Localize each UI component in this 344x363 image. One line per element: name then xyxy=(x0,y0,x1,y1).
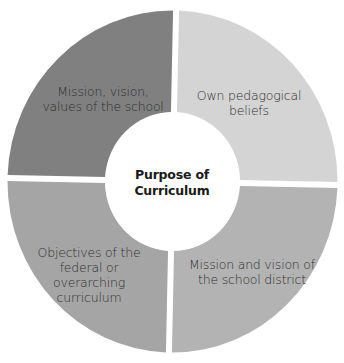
label-line: Mission, vision, xyxy=(40,84,166,99)
label-line: curriculum xyxy=(34,290,144,305)
label-line: Mission and vision of xyxy=(184,257,320,272)
label-line: values of the school xyxy=(40,99,166,114)
center-title: Purpose of Curriculum xyxy=(122,167,222,199)
label-line: Objectives of the xyxy=(34,245,144,260)
center-title-line: Purpose of xyxy=(122,167,222,183)
segment-label-bottom-right: Mission and vision of the school distric… xyxy=(184,257,320,287)
segment-label-bottom-left: Objectives of the federal or overarching… xyxy=(34,245,144,305)
segment-label-top-right: Own pedagogical beliefs xyxy=(192,88,306,118)
label-line: Own pedagogical xyxy=(192,88,306,103)
segment-label-top-left: Mission, vision, values of the school xyxy=(40,84,166,114)
label-line: overarching xyxy=(34,275,144,290)
center-title-line: Curriculum xyxy=(122,183,222,199)
label-line: federal or xyxy=(34,260,144,275)
label-line: beliefs xyxy=(192,103,306,118)
label-line: the school district xyxy=(184,272,320,287)
